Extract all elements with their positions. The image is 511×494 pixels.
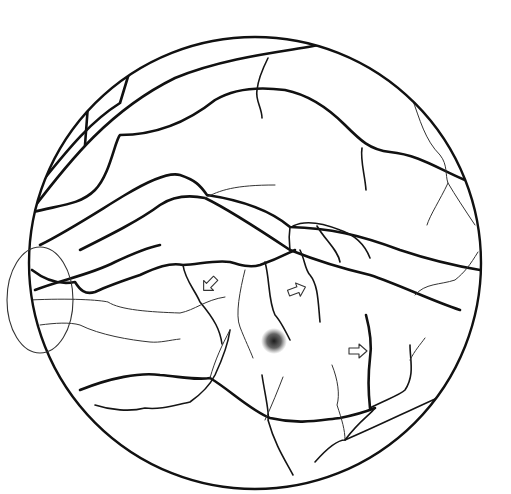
fundus-diagram	[0, 0, 511, 494]
hollow-arrow-icon	[349, 344, 367, 358]
hollow-arrow-icon	[286, 280, 308, 299]
fundus-border	[29, 37, 481, 489]
retinal-vessels	[30, 44, 480, 475]
hollow-arrow-icon	[199, 273, 221, 295]
macula-spot	[261, 328, 287, 354]
